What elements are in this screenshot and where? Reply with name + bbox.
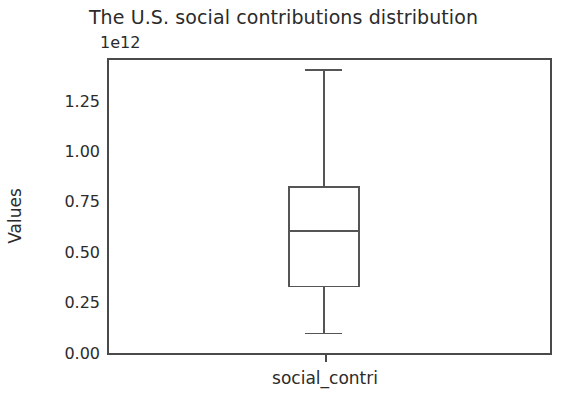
y-tick-label-0-75: 0.75 xyxy=(36,192,100,211)
y-axis-label: Values xyxy=(5,161,25,271)
y-tick-label-0-50: 0.50 xyxy=(36,243,100,262)
x-tick-mark xyxy=(325,355,327,362)
x-tick-label-social-contri: social_contri xyxy=(215,368,435,388)
y-tick-label-1-00: 1.00 xyxy=(36,142,100,161)
y-tick-label-1-25: 1.25 xyxy=(36,92,100,111)
interquartile-box xyxy=(289,187,359,287)
box-social-contri xyxy=(289,70,359,334)
boxplot-graphic xyxy=(107,58,552,355)
y-axis-tick-labels: 1.25 1.00 0.75 0.50 0.25 0.00 xyxy=(28,0,100,408)
y-tick-label-0-25: 0.25 xyxy=(36,293,100,312)
y-axis-offset-label: 1e12 xyxy=(100,33,140,52)
y-tick-label-0-00: 0.00 xyxy=(36,344,100,363)
boxplot-figure: The U.S. social contributions distributi… xyxy=(0,0,567,408)
